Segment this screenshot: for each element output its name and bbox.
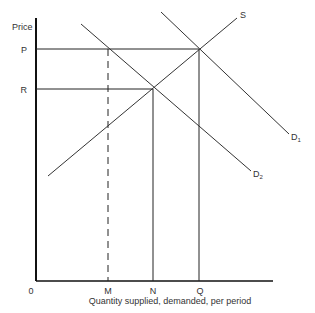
supply-curve-s (48, 18, 237, 176)
demand-curve-d1 (161, 12, 289, 134)
curve-label-d2: D2 (253, 169, 264, 180)
curve-label-s: S (240, 10, 246, 20)
quantity-label-m: M (104, 286, 112, 296)
y-axis-label: Price (12, 22, 33, 32)
origin-label: 0 (28, 286, 33, 296)
x-axis-label: Quantity supplied, demanded, per period (89, 296, 252, 306)
price-label-r: R (21, 85, 28, 95)
demand-curve-d2 (81, 24, 251, 171)
curve-label-d1: D1 (291, 132, 302, 143)
supply-demand-diagram: Price P R 0 M N Q Quantity supplied, dem… (0, 0, 315, 313)
quantity-label-q: Q (196, 286, 203, 296)
quantity-label-n: N (150, 286, 157, 296)
price-label-p: P (21, 45, 27, 55)
